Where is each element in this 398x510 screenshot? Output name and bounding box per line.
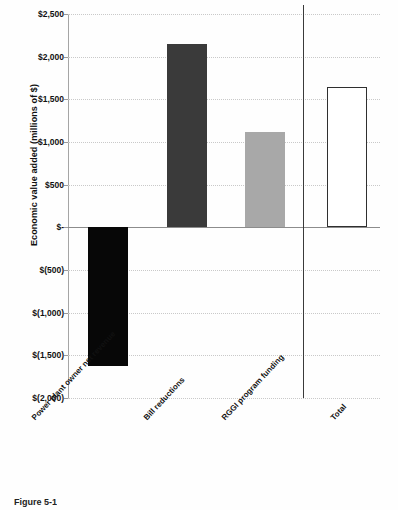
y-axis-tick-label: $2,500	[38, 9, 64, 19]
y-axis-tick-label: $(500)	[39, 265, 64, 275]
y-axis-tick-label: $500	[45, 180, 64, 190]
bar-rggi-program-funding	[245, 132, 285, 228]
grid-line	[68, 57, 380, 58]
y-axis-tick-label: $1,500	[38, 94, 64, 104]
y-axis-tick-label: $1,000	[38, 137, 64, 147]
y-axis-tick	[64, 99, 68, 100]
total-separator-line	[303, 5, 304, 398]
y-axis-tick	[64, 313, 68, 314]
bar-total	[327, 87, 367, 227]
grid-line	[68, 14, 380, 15]
plot-area	[68, 14, 380, 398]
bar-bill-reductions	[167, 44, 207, 227]
y-axis-tick	[64, 227, 68, 228]
figure-caption: Figure 5-1	[14, 497, 57, 510]
y-axis-tick-label: $(1,500)	[32, 350, 64, 360]
grid-line	[68, 398, 380, 399]
figure-container: Economic value added (millions of $) $2,…	[0, 0, 398, 510]
y-axis-tick-labels: $2,500$2,000$1,500$1,000$500$-$(500)$(1,…	[0, 14, 64, 398]
y-axis-tick-label: $-	[56, 222, 64, 232]
x-axis-label-total: Total	[329, 402, 348, 422]
y-axis-tick	[64, 185, 68, 186]
y-axis-tick	[64, 142, 68, 143]
y-axis-tick	[64, 270, 68, 271]
y-axis-tick	[64, 57, 68, 58]
y-axis-tick	[64, 14, 68, 15]
y-axis-tick	[64, 398, 68, 399]
y-axis-tick-label: $2,000	[38, 52, 64, 62]
y-axis-tick-label: $(1,000)	[32, 308, 64, 318]
y-axis-tick	[64, 355, 68, 356]
